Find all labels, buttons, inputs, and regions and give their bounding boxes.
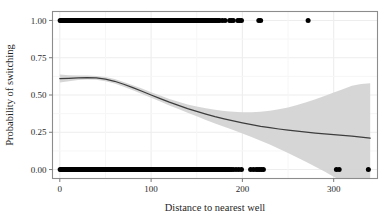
data-point bbox=[306, 18, 311, 23]
y-tick-label: 0.00 bbox=[31, 165, 47, 175]
data-point bbox=[337, 167, 342, 172]
data-point bbox=[223, 18, 228, 23]
y-tick-label: 1.00 bbox=[31, 16, 47, 26]
x-tick-label: 0 bbox=[58, 184, 63, 194]
data-point bbox=[261, 167, 266, 172]
x-tick-label: 300 bbox=[327, 184, 341, 194]
x-tick-label: 200 bbox=[236, 184, 250, 194]
chart-figure: 01002003000.000.250.500.751.00Distance t… bbox=[0, 0, 387, 223]
y-tick-label: 0.50 bbox=[31, 90, 47, 100]
scatter-plot-svg: 01002003000.000.250.500.751.00Distance t… bbox=[0, 0, 387, 223]
data-point bbox=[366, 167, 371, 172]
y-tick-label: 0.25 bbox=[31, 127, 47, 137]
data-point bbox=[239, 167, 244, 172]
data-point bbox=[239, 18, 244, 23]
x-tick-label: 100 bbox=[144, 184, 158, 194]
y-axis-title: Probability of switching bbox=[4, 44, 15, 146]
data-point bbox=[258, 18, 263, 23]
data-point bbox=[231, 18, 236, 23]
x-axis-title: Distance to nearest well bbox=[165, 202, 266, 213]
y-tick-label: 0.75 bbox=[31, 53, 47, 63]
